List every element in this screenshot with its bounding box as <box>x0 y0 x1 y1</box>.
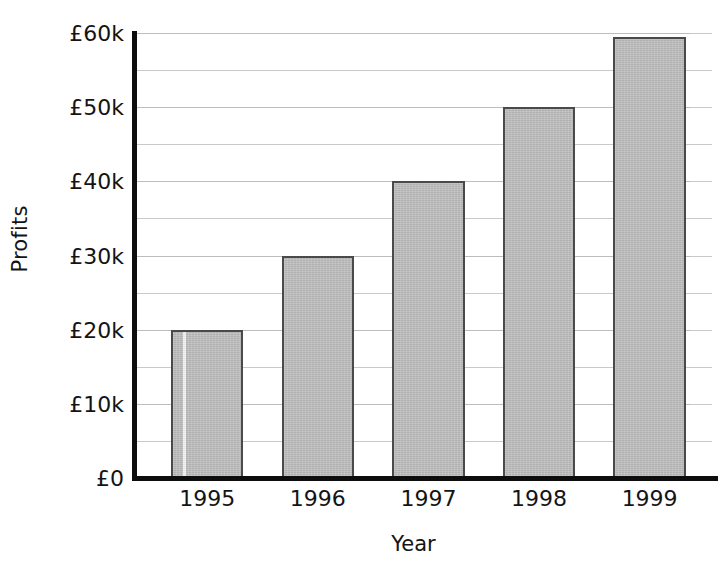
y-tick-label: £50k <box>69 95 124 120</box>
y-tick-label: £30k <box>69 243 124 268</box>
right-tick-45000 <box>690 144 712 145</box>
bar-1998[interactable] <box>503 107 575 478</box>
x-tick-label-1997: 1997 <box>400 486 456 511</box>
right-tick-25000 <box>690 293 712 294</box>
right-tick-60000 <box>690 33 712 34</box>
bar-1997[interactable] <box>392 181 464 478</box>
scan-streak <box>183 332 186 476</box>
x-tick-label-1995: 1995 <box>179 486 235 511</box>
right-tick-40000 <box>690 181 712 182</box>
right-tick-5000 <box>690 441 712 442</box>
x-tick-label-1998: 1998 <box>511 486 567 511</box>
bar-chart: Profits £0£10k£20k£30k£40k£50k£60k 19951… <box>0 0 721 573</box>
bar-1996[interactable] <box>282 256 354 479</box>
right-tick-35000 <box>690 218 712 219</box>
x-tick-label-1996: 1996 <box>290 486 346 511</box>
right-tick-30000 <box>690 256 712 257</box>
right-axis-ticks <box>690 33 718 478</box>
right-tick-10000 <box>690 404 712 405</box>
x-axis-line <box>132 476 718 481</box>
bar-1999[interactable] <box>613 37 685 478</box>
bar-1995[interactable] <box>171 330 243 478</box>
y-axis-line <box>132 31 137 480</box>
x-axis-tick-labels: 19951996199719981999 <box>137 486 690 526</box>
x-tick-label-1999: 1999 <box>622 486 678 511</box>
x-axis-title: Year <box>137 532 690 556</box>
x-axis-title-text: Year <box>391 532 435 556</box>
y-tick-label: £0 <box>96 466 124 491</box>
y-tick-label: £10k <box>69 391 124 416</box>
right-tick-50000 <box>690 107 712 108</box>
bars-layer <box>137 33 690 478</box>
y-axis-title-text: Profits <box>8 205 32 272</box>
y-tick-label: £40k <box>69 169 124 194</box>
right-tick-55000 <box>690 70 712 71</box>
right-tick-15000 <box>690 367 712 368</box>
y-tick-label: £60k <box>69 21 124 46</box>
y-axis-title: Profits <box>0 0 40 478</box>
y-tick-label: £20k <box>69 317 124 342</box>
y-axis-tick-labels: £0£10k£20k£30k£40k£50k£60k <box>40 0 134 573</box>
right-tick-20000 <box>690 330 712 331</box>
